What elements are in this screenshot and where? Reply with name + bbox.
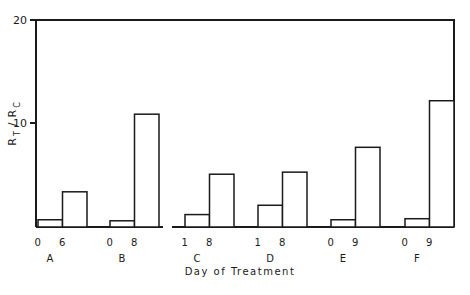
y-title-slash: /	[6, 120, 19, 126]
bars-layer	[38, 101, 454, 227]
bar-e-day-0	[331, 220, 356, 227]
group-label: A	[47, 253, 55, 264]
bar-c-day-1	[185, 215, 210, 227]
day-label: 0	[107, 237, 114, 248]
group-label: B	[119, 253, 127, 264]
day-label: 1	[182, 237, 189, 248]
y-title-sub-c: C	[13, 100, 22, 108]
group-label: D	[266, 253, 275, 264]
day-label: 9	[352, 237, 359, 248]
day-label: 6	[59, 237, 66, 248]
day-label: 9	[426, 237, 433, 248]
x-axis-title: Day of Treatment	[185, 266, 296, 277]
day-label: 0	[328, 237, 335, 248]
bar-c-day-8	[210, 174, 235, 227]
bar-b-day-8	[135, 114, 160, 227]
group-label: F	[414, 253, 421, 264]
day-label: 8	[279, 237, 286, 248]
day-label: 0	[402, 237, 409, 248]
bar-a-day-6	[63, 192, 88, 227]
bar-d-day-8	[283, 172, 308, 227]
y-tick-label-20: 20	[13, 14, 27, 27]
plot-frame	[36, 20, 454, 227]
bar-a-day-0	[38, 220, 63, 227]
day-label: 0	[35, 237, 42, 248]
bar-f-day-9	[430, 101, 455, 227]
y-title-sub-t: T	[13, 129, 22, 137]
group-label: E	[340, 253, 347, 264]
bar-f-day-0	[405, 219, 430, 227]
y-title-r2: R	[6, 108, 19, 118]
bar-chart: 20 10 RT/RC 06A08B18C18D09E09F Day of Tr…	[0, 0, 470, 295]
x-labels-layer: 06A08B18C18D09E09F	[35, 237, 434, 264]
day-label: 8	[131, 237, 138, 248]
group-label: C	[194, 253, 202, 264]
bar-b-day-0	[110, 221, 135, 227]
y-title-r1: R	[6, 136, 19, 146]
day-label: 1	[255, 237, 262, 248]
day-label: 8	[206, 237, 213, 248]
bar-d-day-1	[258, 205, 283, 227]
bar-e-day-9	[356, 147, 381, 227]
